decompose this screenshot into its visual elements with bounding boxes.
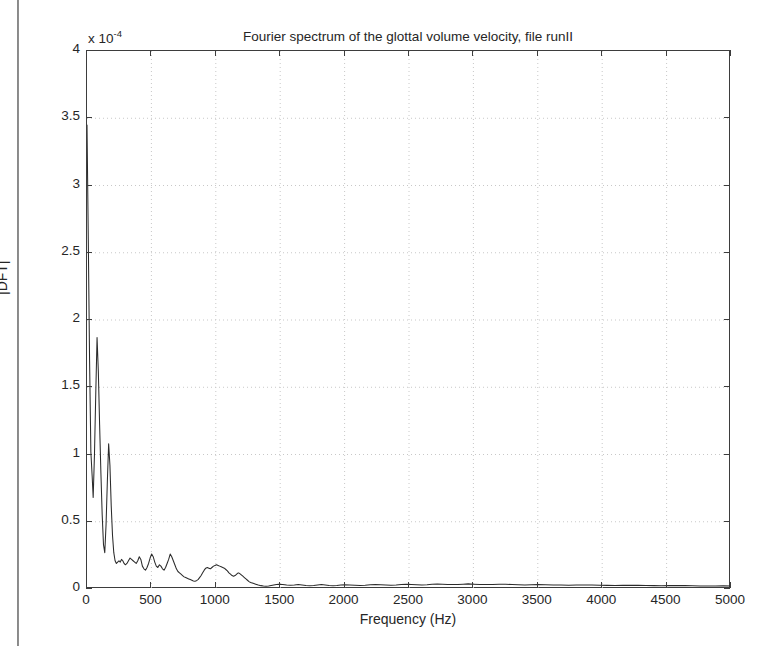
x-tick — [279, 582, 280, 588]
y-tick — [86, 588, 92, 589]
x-tick-top — [408, 50, 409, 56]
x-tick-label: 2500 — [378, 592, 438, 607]
y-tick-label: 2 — [40, 310, 80, 325]
y-tick-right — [724, 117, 730, 118]
x-tick — [344, 582, 345, 588]
y-tick — [86, 117, 92, 118]
y-tick-right — [724, 386, 730, 387]
y-axis-label: |DFT| — [0, 261, 10, 296]
x-tick-top — [150, 50, 151, 56]
y-tick-right — [724, 252, 730, 253]
y-tick-right — [724, 185, 730, 186]
x-tick — [150, 582, 151, 588]
x-tick-top — [344, 50, 345, 56]
y-tick-label: 1.5 — [40, 377, 80, 392]
chart-title: Fourier spectrum of the glottal volume v… — [86, 29, 730, 44]
x-tick-top — [279, 50, 280, 56]
y-tick — [86, 252, 92, 253]
y-tick — [86, 50, 92, 51]
y-tick-right — [724, 521, 730, 522]
x-tick-top — [730, 50, 731, 56]
x-tick-label: 500 — [120, 592, 180, 607]
x-tick-label: 2000 — [314, 592, 374, 607]
y-tick-label: 3.5 — [40, 108, 80, 123]
y-tick-label: 0.5 — [40, 512, 80, 527]
y-tick-right — [724, 319, 730, 320]
y-tick-label: 1 — [40, 445, 80, 460]
x-tick-label: 1500 — [249, 592, 309, 607]
y-tick-right — [724, 588, 730, 589]
x-tick — [472, 582, 473, 588]
x-tick — [537, 582, 538, 588]
x-tick-label: 3500 — [507, 592, 567, 607]
x-tick-top — [215, 50, 216, 56]
x-tick — [215, 582, 216, 588]
x-tick — [601, 582, 602, 588]
x-tick — [730, 582, 731, 588]
y-tick — [86, 386, 92, 387]
x-tick-label: 5000 — [700, 592, 760, 607]
x-tick — [408, 582, 409, 588]
figure-canvas: x 10-4 Fourier spectrum of the glottal v… — [0, 0, 779, 646]
x-tick-top — [472, 50, 473, 56]
x-tick-label: 3000 — [442, 592, 502, 607]
y-tick — [86, 185, 92, 186]
plot-area — [86, 50, 730, 588]
y-tick-label: 2.5 — [40, 243, 80, 258]
y-tick-right — [724, 50, 730, 51]
x-tick-top — [601, 50, 602, 56]
y-tick — [86, 521, 92, 522]
x-tick-label: 4000 — [571, 592, 631, 607]
y-tick-label: 4 — [40, 41, 80, 56]
x-tick-label: 4500 — [636, 592, 696, 607]
spectrum-line-series — [87, 51, 731, 589]
x-tick-label: 0 — [56, 592, 116, 607]
y-tick-label: 0 — [40, 579, 80, 594]
x-tick-top — [666, 50, 667, 56]
x-axis-label: Frequency (Hz) — [86, 611, 730, 627]
y-tick-label: 3 — [40, 176, 80, 191]
x-tick-top — [537, 50, 538, 56]
y-tick-right — [724, 454, 730, 455]
data-series-dft — [87, 125, 731, 586]
y-tick — [86, 454, 92, 455]
x-tick — [666, 582, 667, 588]
x-tick-label: 1000 — [185, 592, 245, 607]
y-tick — [86, 319, 92, 320]
